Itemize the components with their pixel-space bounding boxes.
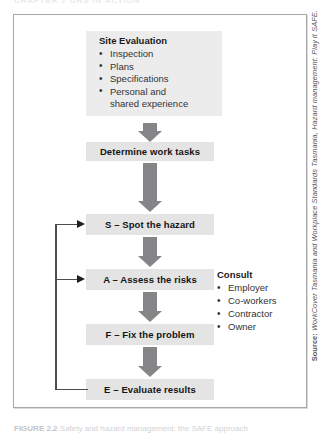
feedback-branch-to-spot (55, 224, 79, 226)
feedback-loop-line-bottom (55, 389, 88, 391)
site-evaluation-list: Inspection Plans Specifications Personal… (99, 48, 218, 111)
process-box-evaluate-results: E – Evaluate results (86, 379, 214, 400)
source-credit: Source: WorkCover Tasmania and Workplace… (303, 10, 317, 410)
list-item: Co-workers (217, 294, 277, 307)
list-item: Owner (217, 320, 277, 333)
figure-caption-text: Safety and hazard management: the SAFE a… (58, 424, 248, 433)
feedback-branch-to-assess (55, 279, 79, 281)
source-text: WorkCover Tasmania and Workplace Standar… (310, 10, 319, 333)
consult-title: Consult (217, 268, 277, 281)
figure-caption-label: FIGURE 2.2 (14, 424, 58, 433)
consult-list: Employer Co-workers Contractor Owner (217, 281, 277, 333)
process-box-fix-the-problem: F – Fix the problem (86, 324, 214, 345)
flow-arrow-icon (138, 123, 162, 141)
source-label: Source: (310, 333, 319, 361)
flow-arrow-icon (138, 237, 162, 267)
site-evaluation-title: Site Evaluation (99, 34, 218, 47)
feedback-arrowhead-icon (77, 275, 85, 283)
process-box-determine-work-tasks: Determine work tasks (86, 142, 214, 161)
figure-page: CHAPTER 2 OHS IN ACTION Site Evaluation … (0, 0, 331, 434)
source-credit-text: Source: WorkCover Tasmania and Workplace… (310, 10, 319, 361)
list-item: Specifications (99, 73, 218, 86)
running-head: CHAPTER 2 OHS IN ACTION (14, 0, 214, 5)
figure-caption: FIGURE 2.2 Safety and hazard management:… (14, 424, 314, 434)
feedback-loop-line (55, 224, 57, 390)
consult-panel: Consult Employer Co-workers Contractor O… (217, 268, 277, 333)
site-evaluation-panel: Site Evaluation Inspection Plans Specifi… (86, 31, 222, 116)
list-item: Contractor (217, 307, 277, 320)
process-box-spot-the-hazard: S – Spot the hazard (86, 214, 214, 235)
feedback-arrowhead-icon (77, 220, 85, 228)
flow-arrow-icon (138, 163, 162, 212)
process-box-assess-the-risks: A – Assess the risks (86, 269, 214, 290)
figure-frame: Site Evaluation Inspection Plans Specifi… (13, 14, 307, 408)
list-item: Inspection (99, 48, 218, 61)
list-item-continuation: shared experience (110, 98, 218, 111)
list-item: Plans (99, 61, 218, 74)
flow-arrow-icon (138, 292, 162, 322)
list-item: Employer (217, 281, 277, 294)
list-item: Personal and shared experience (99, 86, 218, 111)
flow-arrow-icon (138, 347, 162, 377)
